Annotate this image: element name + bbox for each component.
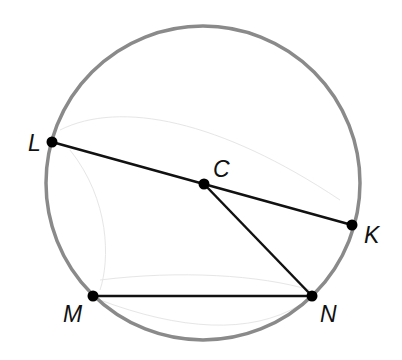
point-c <box>199 179 210 190</box>
faint-sketch-lines <box>60 117 340 325</box>
points <box>47 137 358 302</box>
diagram-canvas: L C K M N <box>0 0 402 360</box>
label-l: L <box>28 130 41 156</box>
geometry-diagram: L C K M N <box>0 0 402 360</box>
label-k: K <box>364 222 381 248</box>
point-l <box>47 137 58 148</box>
point-n <box>307 291 318 302</box>
point-m <box>88 291 99 302</box>
label-c: C <box>213 156 230 182</box>
point-k <box>347 220 358 231</box>
label-m: M <box>63 301 83 327</box>
point-labels: L C K M N <box>28 130 381 327</box>
label-n: N <box>320 301 337 327</box>
